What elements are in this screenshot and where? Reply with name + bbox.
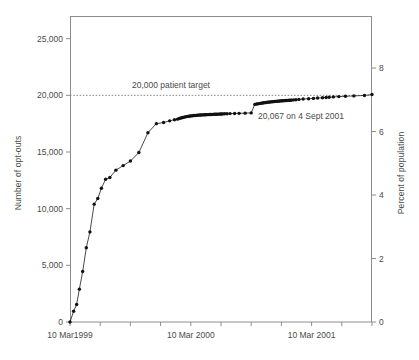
data-point — [243, 111, 246, 114]
y-axis-left-tick-label: 5,000 — [42, 260, 64, 270]
data-point — [121, 164, 124, 167]
data-point — [85, 246, 88, 249]
x-axis-tick-label: 10 Mar 2001 — [288, 330, 336, 340]
data-point — [92, 202, 95, 205]
chart-svg: 05,00010,00015,00020,00025,000 02468 10 … — [0, 0, 419, 360]
data-point — [312, 97, 315, 100]
data-point — [68, 320, 71, 323]
data-point — [173, 118, 176, 121]
data-point — [146, 131, 149, 134]
data-point — [294, 98, 297, 101]
data-point — [228, 112, 231, 115]
y-axis-left-ticks: 05,00010,00015,00020,00025,000 — [37, 34, 70, 327]
data-point — [316, 96, 319, 99]
data-point — [344, 95, 347, 98]
data-point — [114, 168, 117, 171]
y-axis-left-tick-label: 0 — [58, 317, 63, 327]
y-axis-left-tick-label: 15,000 — [37, 147, 63, 157]
data-point — [137, 151, 140, 154]
y-axis-right-tick-label: 2 — [379, 254, 384, 264]
data-point — [233, 112, 236, 115]
data-point — [327, 96, 330, 99]
y-axis-left-tick-label: 25,000 — [37, 34, 63, 44]
data-point — [81, 270, 84, 273]
y-axis-left-tick-label: 10,000 — [37, 204, 63, 214]
data-point — [301, 97, 304, 100]
data-point — [155, 122, 158, 125]
data-point — [307, 97, 310, 100]
data-point — [162, 121, 165, 124]
y-axis-right-ticks: 02468 — [372, 63, 384, 327]
data-point — [108, 176, 111, 179]
final-value-label: 20,067 on 4 Sept 2001 — [258, 111, 344, 121]
data-point — [370, 93, 373, 96]
y-axis-right-tick-label: 0 — [379, 317, 384, 327]
y-axis-right-tick-label: 6 — [379, 127, 384, 137]
data-point — [75, 303, 78, 306]
data-point — [250, 111, 253, 114]
data-point — [363, 94, 366, 97]
data-point — [78, 287, 81, 290]
data-point — [297, 98, 300, 101]
data-point — [72, 310, 75, 313]
data-point — [352, 94, 355, 97]
y-axis-right-tick-label: 4 — [379, 190, 384, 200]
data-point — [129, 159, 132, 162]
x-axis-tick-label: 10 Mar1999 — [47, 330, 93, 340]
y-axis-right-tick-label: 8 — [379, 63, 384, 73]
data-point — [225, 112, 228, 115]
chart-annotations: 20,000 patient target20,067 on 4 Sept 20… — [132, 80, 344, 121]
data-point — [237, 112, 240, 115]
data-point — [88, 230, 91, 233]
data-point — [321, 96, 324, 99]
target-line-label: 20,000 patient target — [132, 80, 211, 90]
series-markers — [68, 93, 373, 324]
data-point — [168, 119, 171, 122]
series-line-cumulative-optouts — [70, 95, 372, 322]
data-point — [337, 95, 340, 98]
data-point — [332, 95, 335, 98]
data-point — [104, 178, 107, 181]
data-point — [100, 187, 103, 190]
data-point — [324, 96, 327, 99]
x-axis-tick-label: 10 Mar 2000 — [167, 330, 215, 340]
y-axis-left-tick-label: 20,000 — [37, 90, 63, 100]
chart-figure: Number of opt-outs Percent of population… — [0, 0, 419, 360]
data-point — [96, 197, 99, 200]
x-axis-ticks: 10 Mar199910 Mar 200010 Mar 2001 — [47, 322, 372, 340]
